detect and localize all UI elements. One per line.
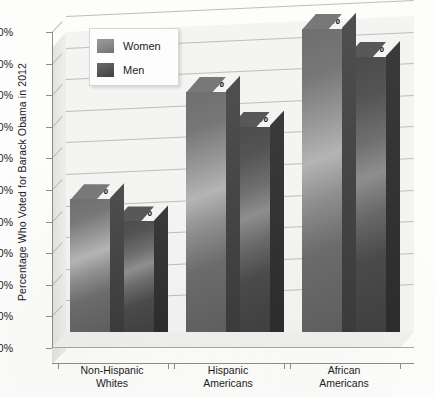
- legend-label-women: Women: [123, 40, 161, 52]
- x-axis-category-label: AfricanAmericans: [280, 364, 408, 390]
- y-axis-line: [52, 32, 53, 348]
- category-label-line: Whites: [48, 377, 176, 390]
- legend-swatch-women: [97, 39, 114, 53]
- legend-item-women: Women: [90, 34, 178, 58]
- y-axis-tick-label: 90%: [0, 58, 13, 70]
- x-axis-category-label: HispanicAmericans: [164, 364, 292, 390]
- y-axis-tick-label: 70%: [0, 121, 13, 133]
- plot-floor-edge: [52, 347, 414, 348]
- y-axis-tick-label: 20%: [0, 279, 13, 291]
- gridline-connector: [52, 21, 63, 33]
- bar-side-face: [154, 205, 168, 332]
- legend-item-men: Men: [90, 58, 178, 82]
- category-label-line: Americans: [280, 377, 408, 390]
- category-label-line: Hispanic: [164, 364, 292, 377]
- y-axis-tick-label: 0%: [0, 342, 13, 354]
- category-label-line: African: [280, 364, 408, 377]
- bar-side-face: [226, 76, 240, 332]
- bar-front-face: [70, 199, 110, 332]
- y-axis-tick-label: 10%: [0, 310, 13, 322]
- bar-front-face: [302, 29, 342, 332]
- y-axis-tick-mark: [46, 348, 52, 349]
- bar-side-face: [342, 13, 356, 332]
- y-axis-tick-label: 50%: [0, 184, 13, 196]
- bar-side-face: [270, 111, 284, 332]
- y-axis-tick-label: 80%: [0, 89, 13, 101]
- bar-side-face: [110, 183, 124, 332]
- y-axis-tick-label: 60%: [0, 152, 13, 164]
- y-axis-tick-label: 30%: [0, 247, 13, 259]
- y-axis-title: Percentage Who Voted for Barack Obama in…: [16, 32, 28, 332]
- bar-women-3[interactable]: [302, 29, 342, 332]
- category-label-line: Americans: [164, 377, 292, 390]
- gridline: [66, 0, 414, 17]
- bar-front-face: [186, 92, 226, 332]
- bar-women-1[interactable]: [70, 199, 110, 332]
- bar-women-2[interactable]: [186, 92, 226, 332]
- legend-swatch-men: [97, 63, 114, 77]
- legend-label-men: Men: [123, 64, 144, 76]
- y-axis-tick-label: 40%: [0, 216, 13, 228]
- chart-container: Percentage Who Voted for Barack Obama in…: [0, 0, 435, 397]
- y-axis-tick-label: 100%: [0, 26, 13, 38]
- chart-legend: Women Men: [89, 28, 179, 86]
- category-label-line: Non-Hispanic: [48, 364, 176, 377]
- bar-side-face: [386, 41, 400, 332]
- x-axis-category-label: Non-HispanicWhites: [48, 364, 176, 390]
